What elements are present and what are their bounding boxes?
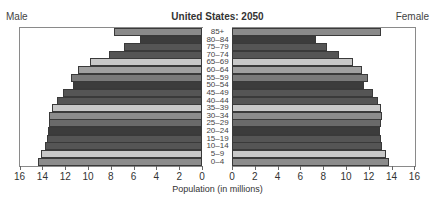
x-tick-label: 0 — [192, 171, 212, 182]
x-tick — [134, 166, 135, 170]
male-bar — [38, 158, 202, 166]
x-tick-label: 8 — [313, 171, 333, 182]
x-tick — [42, 166, 43, 170]
x-tick — [278, 166, 279, 170]
x-tick-label: 8 — [101, 171, 121, 182]
x-axis-label: Population (in millions) — [0, 184, 435, 194]
x-tick — [323, 166, 324, 170]
x-tick — [232, 166, 233, 170]
x-tick-label: 2 — [169, 171, 189, 182]
x-tick-label: 12 — [359, 171, 379, 182]
x-tick-label: 10 — [336, 171, 356, 182]
x-tick — [179, 166, 180, 170]
x-tick — [414, 166, 415, 170]
x-tick-label: 0 — [222, 171, 242, 182]
x-tick-label: 6 — [124, 171, 144, 182]
chart-title: United States: 2050 — [0, 11, 435, 22]
x-tick — [369, 166, 370, 170]
x-tick-label: 2 — [245, 171, 265, 182]
x-tick — [111, 166, 112, 170]
female-label: Female — [396, 11, 429, 22]
x-tick-label: 4 — [146, 171, 166, 182]
x-tick-label: 6 — [290, 171, 310, 182]
x-tick-label: 10 — [78, 171, 98, 182]
x-tick-label: 14 — [32, 171, 52, 182]
x-tick-label: 4 — [268, 171, 288, 182]
age-group-label: 0–4 — [203, 158, 232, 166]
x-tick-label: 16 — [404, 171, 424, 182]
x-tick — [392, 166, 393, 170]
x-tick — [255, 166, 256, 170]
x-tick-label: 16 — [10, 171, 30, 182]
x-tick — [300, 166, 301, 170]
x-tick — [88, 166, 89, 170]
x-tick — [65, 166, 66, 170]
female-bar — [232, 158, 389, 166]
x-tick-label: 12 — [55, 171, 75, 182]
x-tick — [156, 166, 157, 170]
x-tick-label: 14 — [382, 171, 402, 182]
x-tick — [202, 166, 203, 170]
x-tick — [346, 166, 347, 170]
x-tick — [20, 166, 21, 170]
